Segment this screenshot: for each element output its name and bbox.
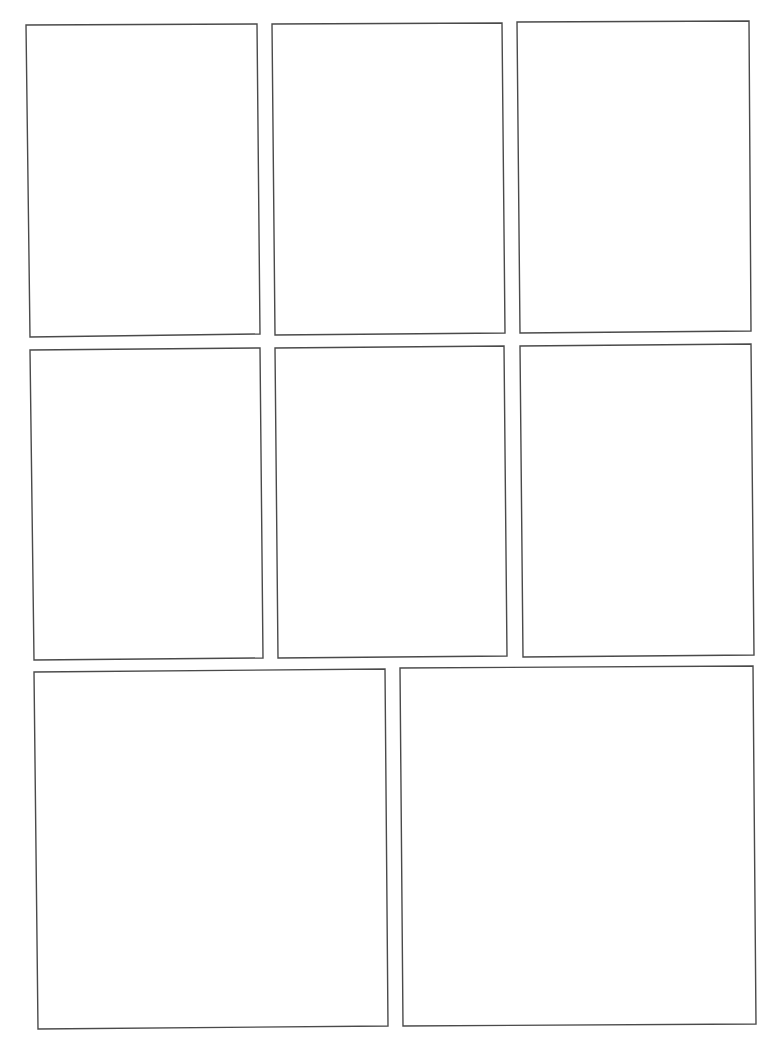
comic-panel-6 [520, 344, 754, 657]
comic-panel-2 [272, 23, 505, 335]
panel-layout [0, 0, 768, 1053]
comic-panel-8 [400, 666, 756, 1026]
comic-panel-5 [275, 346, 507, 658]
comic-panel-1 [26, 24, 260, 337]
comic-panel-3 [517, 21, 751, 333]
comic-panel-7 [34, 669, 388, 1029]
comic-panel-4 [30, 348, 263, 660]
comic-page [0, 0, 768, 1053]
